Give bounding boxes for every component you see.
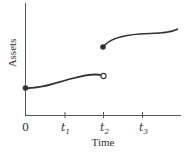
filled-point-start xyxy=(23,85,29,91)
x-axis-title: Time xyxy=(92,136,115,148)
open-point-t2 xyxy=(101,73,106,78)
x-tick-label-t3: t3 xyxy=(139,121,148,136)
chart-canvas: 0 t1 t2 t3 Time Assets xyxy=(0,0,194,152)
curve-segment-1 xyxy=(25,74,102,88)
filled-point-t2 xyxy=(100,44,106,50)
curve-segment-2 xyxy=(103,29,178,47)
y-axis-title: Assets xyxy=(6,39,18,68)
assets-time-chart: 0 t1 t2 t3 Time Assets xyxy=(0,0,194,152)
x-tick-label-t1: t1 xyxy=(61,121,70,136)
x-tick-label-t2: t2 xyxy=(100,121,109,136)
x-tick-label-0: 0 xyxy=(22,121,29,134)
